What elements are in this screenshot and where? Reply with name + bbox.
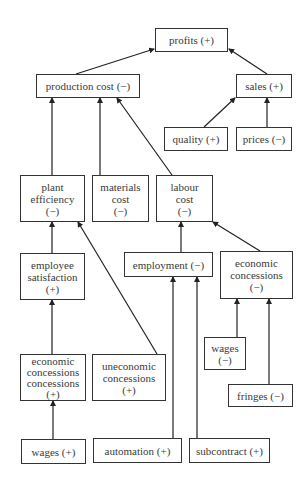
node-economic-concessions-right: economic concessions (−): [220, 251, 293, 299]
node-label: employment (−): [133, 259, 204, 271]
node-label: satisfaction: [27, 271, 77, 283]
node-sign: (−): [114, 205, 128, 217]
node-label: automation (+): [105, 445, 171, 457]
node-sign: (−): [46, 205, 60, 217]
node-label: sales (+): [245, 80, 283, 92]
node-quality: quality (+): [164, 127, 228, 151]
node-wages-plus: wages (+): [21, 439, 86, 464]
node-label: efficiency: [31, 193, 75, 205]
node-materials-cost: materials cost (−): [92, 175, 149, 222]
node-label: plant: [42, 181, 64, 193]
node-label: concessions: [103, 372, 156, 384]
edge-uneconomic-concessions-to-plant-efficiency: [78, 222, 157, 354]
node-sign: (+): [46, 389, 60, 400]
node-sign: (+): [46, 283, 60, 295]
node-automation: automation (+): [93, 438, 182, 463]
node-label: cost: [112, 193, 130, 205]
node-label: quality (+): [173, 133, 220, 145]
node-subcontract: subcontract (+): [189, 438, 270, 463]
node-label: wages: [211, 342, 239, 354]
node-label: employee: [31, 259, 74, 271]
node-production-cost: production cost (−): [36, 74, 140, 98]
node-label: production cost (−): [46, 80, 130, 92]
node-uneconomic-concessions: uneconomic concessions (+): [92, 354, 166, 401]
node-label: uneconomic: [102, 360, 156, 372]
node-sign: (−): [218, 354, 232, 366]
node-prices: prices (−): [236, 127, 292, 151]
node-label: materials: [100, 181, 140, 193]
node-label: fringes (−): [237, 390, 284, 402]
edge-production-cost-to-profits: [76, 49, 154, 74]
node-label: wages (+): [32, 446, 76, 458]
node-label: concessions: [230, 269, 283, 281]
node-label: labour: [170, 181, 198, 193]
node-sign: (−): [178, 205, 192, 217]
node-economic-concessions-left: economic concessions concessions (+): [20, 354, 86, 401]
node-label: concessions: [27, 367, 80, 378]
node-fringes: fringes (−): [228, 384, 293, 407]
node-label: concessions: [27, 378, 80, 389]
causal-diagram: profits (+) production cost (−) sales (+…: [0, 0, 307, 483]
node-profits: profits (+): [155, 28, 228, 52]
node-employment: employment (−): [124, 252, 213, 277]
edge-economic-concessions-to-labour-cost: [213, 222, 260, 251]
node-labour-cost: labour cost (−): [156, 175, 213, 222]
node-sales: sales (+): [236, 74, 292, 98]
node-label: cost: [176, 193, 194, 205]
node-label: economic: [235, 257, 278, 269]
node-label: subcontract (+): [196, 445, 263, 457]
node-plant-efficiency: plant efficiency (−): [20, 175, 85, 222]
node-employee-satisfaction: employee satisfaction (+): [20, 253, 85, 300]
node-sign: (−): [250, 281, 264, 293]
node-label: economic: [32, 356, 75, 367]
edge-sales-to-profits: [229, 49, 267, 74]
edge-layer: [0, 0, 307, 483]
node-wages-minus: wages (−): [204, 337, 246, 370]
edge-quality-to-sales: [204, 98, 235, 127]
node-label: profits (+): [169, 34, 214, 46]
node-sign: (+): [122, 384, 136, 396]
node-label: prices (−): [243, 133, 286, 145]
